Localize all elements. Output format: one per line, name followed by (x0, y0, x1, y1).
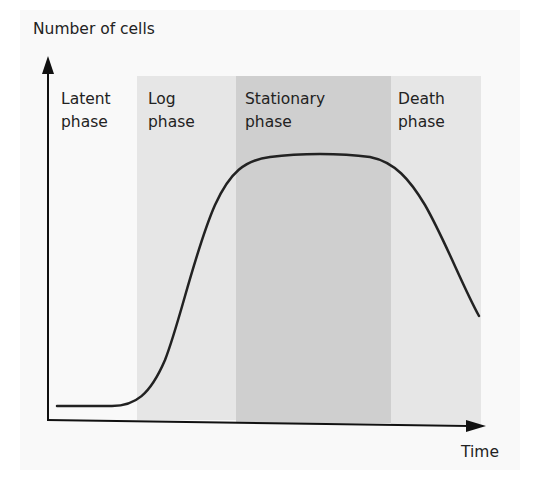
log-phase-label: Log (148, 90, 176, 108)
stationary-phase-label: Stationary (245, 90, 325, 108)
stationary-phase-label-2: phase (245, 113, 292, 131)
death-phase-label: Death (398, 90, 445, 108)
y-axis-arrow-icon (42, 56, 54, 74)
death-phase-label-2: phase (398, 113, 445, 131)
latent-phase-label-2: phase (61, 113, 108, 131)
y-axis-title: Number of cells (33, 20, 155, 38)
growth-curve-diagram: Latent phase Log phase Stationary phase … (0, 0, 540, 477)
log-phase-label-2: phase (148, 113, 195, 131)
x-axis-title: Time (460, 443, 499, 461)
latent-phase-label: Latent (61, 90, 111, 108)
